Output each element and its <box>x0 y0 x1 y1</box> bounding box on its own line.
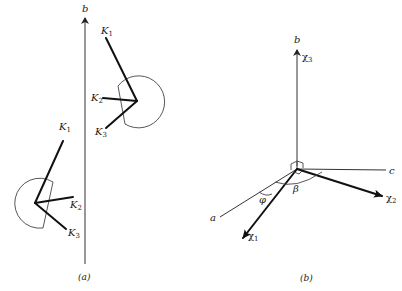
a-axis <box>220 169 297 217</box>
chi1-vector <box>243 169 297 238</box>
panel-a: b K1 K2 K3 K1 K2 K3 (a) <box>15 3 165 282</box>
chi3-label: χ3 <box>302 51 313 64</box>
a-axis-label: a <box>210 212 216 223</box>
c-axis-label: c <box>389 165 395 176</box>
lower-k-assembly: K1 K2 K3 <box>15 121 82 240</box>
lower-k2-line <box>35 197 73 203</box>
lower-k3-line <box>35 203 66 229</box>
lower-k3-label: K3 <box>67 227 80 240</box>
lower-arc <box>15 178 53 228</box>
lower-k1-label: K1 <box>58 121 71 134</box>
upper-k1-line <box>106 38 137 101</box>
upper-arc <box>118 76 165 128</box>
caption-b: (b) <box>300 273 313 283</box>
chi2-vector <box>297 169 382 196</box>
lower-k1-line <box>35 141 63 203</box>
chi1-label: χ1 <box>248 230 259 243</box>
c-axis <box>297 169 386 170</box>
crystal-axes-diagram: b K1 K2 K3 K1 K2 K3 (a) b χ3 <box>0 0 402 291</box>
caption-a: (a) <box>78 272 91 282</box>
phi-label: φ <box>259 194 266 205</box>
upper-k-assembly: K1 K2 K3 <box>90 25 165 139</box>
lower-k2-label: K2 <box>69 199 82 212</box>
upper-k2-label: K2 <box>90 92 103 105</box>
b-axis-label-b: b <box>294 34 300 45</box>
upper-k1-label: K1 <box>100 25 113 38</box>
chi2-label: χ2 <box>386 192 397 205</box>
panel-b: b χ3 c a χ2 χ1 φ β (b) <box>210 34 397 283</box>
beta-label: β <box>292 183 299 194</box>
b-axis-label-a: b <box>82 3 88 14</box>
